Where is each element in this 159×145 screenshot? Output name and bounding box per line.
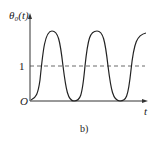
x-axis-label: t bbox=[144, 106, 147, 117]
figure-caption: b) bbox=[80, 124, 88, 134]
origin-label: O bbox=[20, 96, 28, 107]
tick-label-1: 1 bbox=[19, 61, 25, 72]
x-axis-arrow-icon bbox=[142, 99, 148, 103]
y-axis-label: θ₀(t) bbox=[9, 10, 29, 21]
